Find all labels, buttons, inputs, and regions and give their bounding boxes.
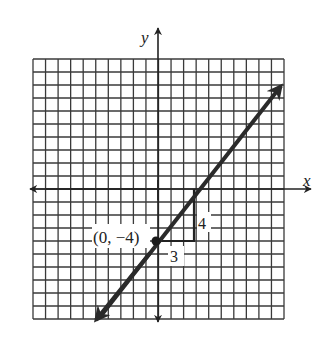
y-intercept-point [152,237,161,246]
x-axis-label: x [302,171,311,190]
y-axis-label: y [139,28,149,47]
run-label: 3 [170,248,178,265]
coordinate-graph: y x 4 3 (0, −4) [0,0,327,338]
point-label: (0, −4) [93,228,139,247]
graph-line-lower-arrow [96,253,150,320]
rise-label: 4 [198,215,206,232]
